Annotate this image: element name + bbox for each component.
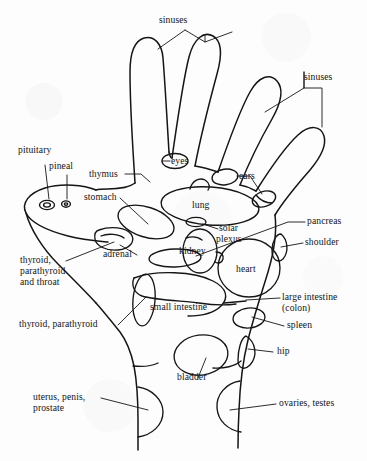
label-uterus-line2: prostate [33,403,64,414]
zone-spleen [232,306,266,329]
label-thyroid-throat-3: and throat [20,277,60,288]
label-solar-plexus-line1: solar [219,223,238,234]
zone-small-intestine [131,273,157,327]
label-thyroid-parathyroid: thyroid, parathyroid [19,319,98,330]
label-heart: heart [236,264,256,275]
label-pineal: pineal [49,161,73,172]
label-ears: ears [239,171,255,182]
label-small-intestine: small intestine [150,302,207,313]
zone-adrenal [95,228,133,250]
label-shoulder: shoulder [305,237,339,248]
label-ovaries-testes: ovaries, testes [279,398,334,409]
label-hip: hip [277,346,290,357]
palm-left-edge [96,303,138,450]
finger-middle-outline [172,34,220,166]
label-adrenal: adrenal [103,249,132,260]
label-solar-plexus-line2: plexus [216,234,242,245]
zone-pituitary [40,200,55,209]
label-thyroid-throat-1: thyroid, [20,255,51,266]
zone-pineal [62,201,71,207]
label-lung: lung [192,200,209,211]
label-large-intestine-2: (colon) [282,303,310,314]
reflexology-hand-diagram: sinuses sinuses pituitary pineal thymus … [0,0,367,461]
label-large-intestine-1: large intestine [282,292,337,303]
label-sinuses-right: sinuses [304,72,332,83]
label-thymus: thymus [89,169,118,180]
label-pituitary: pituitary [18,145,51,156]
label-uterus-line1: uterus, penis, [33,392,85,403]
label-kidney: kidney [179,246,206,257]
palm-right-edge [238,215,276,448]
label-eyes: eyes [171,156,188,167]
label-sinuses-top: sinuses [159,15,187,26]
label-bladder: bladder [177,372,206,383]
zone-hip [213,336,255,368]
label-stomach: stomach [84,192,117,203]
label-thyroid-throat-2: parathyroid [20,266,65,277]
zone-ears-secondary [250,188,278,210]
zone-ovaries-testes [217,381,241,432]
label-spleen: spleen [287,320,312,331]
label-pancreas: pancreas [307,216,341,227]
